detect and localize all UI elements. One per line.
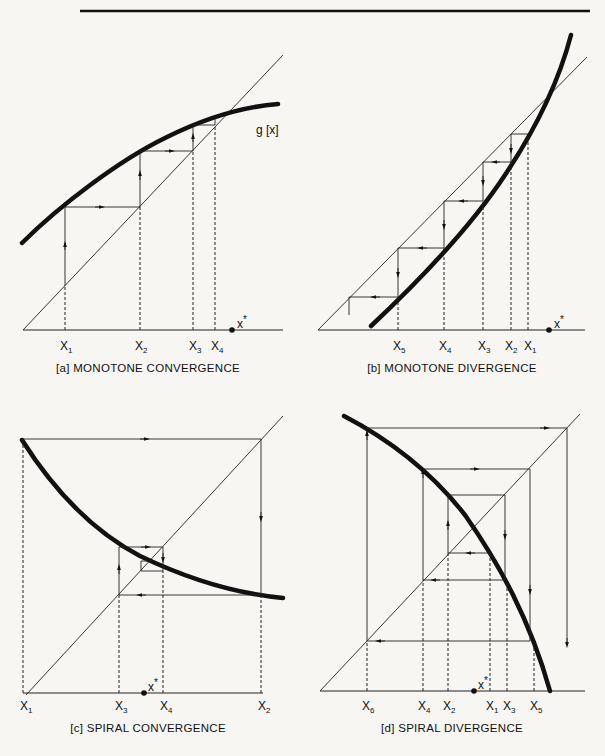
cobweb-path [22, 439, 261, 595]
panel-c-spiral-convergence: x* X1 X3 X4 X2 [c] SPIRAL CONVERGENCE [20, 416, 283, 734]
iterate-label-x4: X4 [160, 699, 173, 715]
g-curve [22, 104, 278, 243]
fixed-point-dot [141, 690, 147, 696]
iterate-label-x5: X5 [530, 699, 543, 715]
panel-d-spiral-divergence: x* X6 X4 X2 X1 X3 X5 [d] SPIRAL DIVERGEN… [320, 414, 585, 734]
fixed-point-dot [546, 327, 552, 333]
caption-c: [c] SPIRAL CONVERGENCE [70, 722, 226, 734]
diagonal-line [23, 55, 283, 330]
iterate-label-x5: X5 [393, 339, 406, 355]
caption-b: [b] MONOTONE DIVERGENCE [367, 362, 537, 374]
iterate-label-x1: X1 [486, 699, 499, 715]
iterate-label-x1: X1 [20, 699, 33, 715]
fixed-point-label: x* [237, 314, 247, 331]
curve-label: g [x] [256, 123, 279, 137]
iterate-label-x4: X4 [418, 699, 431, 715]
cobweb-path [367, 428, 567, 645]
fixed-point-label: x* [554, 314, 564, 331]
iterate-label-x1: X1 [524, 339, 537, 355]
iterate-label-x3: X3 [478, 339, 491, 355]
fixed-point-label: x* [148, 677, 158, 694]
fixed-point-dot [229, 327, 235, 333]
g-curve [22, 440, 283, 598]
iterate-label-x6: X6 [362, 699, 375, 715]
iterate-label-x3: X3 [115, 699, 128, 715]
diagonal-line [320, 414, 580, 691]
iterate-label-x2: X2 [258, 699, 271, 715]
panel-a-monotone-convergence: g [x] x* X1 X2 X3 X4 [a] MONOTONE CONVER… [22, 55, 283, 374]
fixed-point-label: x* [478, 675, 488, 692]
iterate-label-x1: X1 [60, 339, 73, 355]
iterate-label-x2: X2 [443, 699, 456, 715]
cobweb-path [349, 134, 528, 315]
iterate-label-x3: X3 [189, 339, 202, 355]
caption-d: [d] SPIRAL DIVERGENCE [381, 722, 523, 734]
iterate-label-x4: X4 [439, 339, 452, 355]
fixed-point-dot [471, 688, 477, 694]
caption-a: [a] MONOTONE CONVERGENCE [56, 362, 240, 374]
g-curve [371, 35, 571, 326]
iterate-label-x3: X3 [503, 699, 516, 715]
iterate-label-x2: X2 [505, 339, 518, 355]
diagonal-line [26, 416, 283, 695]
g-curve [344, 416, 550, 691]
iterate-label-x4: X4 [211, 339, 224, 355]
iterate-label-x2: X2 [135, 339, 148, 355]
cobweb-diagram-figure: g [x] x* X1 X2 X3 X4 [a] MONOTONE CONVER… [0, 0, 605, 756]
panel-b-monotone-divergence: x* X5 X4 X3 X2 X1 [b] MONOTONE DIVERGENC… [318, 35, 587, 374]
